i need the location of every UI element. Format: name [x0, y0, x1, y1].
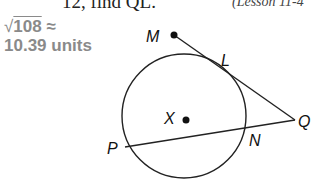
segment-mq: [174, 35, 295, 120]
label-p: P: [107, 140, 118, 157]
geometry-diagram: M L Q X P N: [0, 0, 331, 187]
label-l: L: [221, 52, 230, 69]
segment-pq: [125, 120, 295, 147]
label-q: Q: [298, 113, 310, 130]
label-m: M: [146, 28, 160, 45]
label-n: N: [249, 132, 261, 149]
point-x-dot: [183, 117, 190, 124]
point-m-dot: [171, 32, 178, 39]
label-x: X: [163, 110, 176, 127]
